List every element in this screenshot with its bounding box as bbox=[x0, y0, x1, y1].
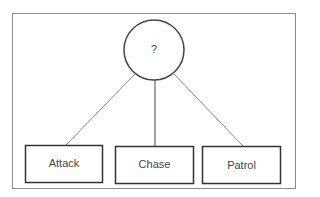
edge-attack bbox=[66, 74, 135, 145]
root-label: ? bbox=[124, 43, 184, 55]
edge-patrol bbox=[174, 74, 243, 146]
attack-label: Attack bbox=[25, 157, 103, 169]
patrol-label: Patrol bbox=[202, 159, 281, 171]
chase-label: Chase bbox=[115, 158, 194, 170]
